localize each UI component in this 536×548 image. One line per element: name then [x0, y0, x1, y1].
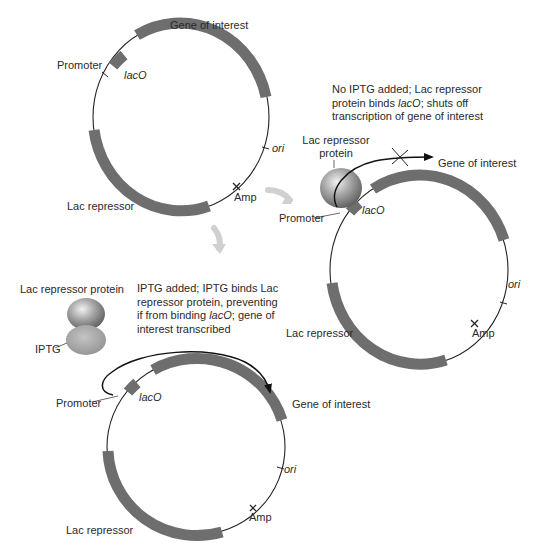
- gene-of-interest-segment: [153, 358, 282, 420]
- label-lac-repressor: Lac repressor: [286, 327, 353, 340]
- plasmid-base: [93, 23, 269, 211]
- lac-repressor-segment: [108, 451, 222, 536]
- lac-repressor-segment: [332, 283, 446, 364]
- label-lac-repressor-protein: Lac repressor protein: [300, 134, 372, 160]
- lac-repressor-protein: [320, 168, 362, 208]
- label-amp: Amp: [234, 191, 257, 204]
- label-laco: lacO: [362, 204, 385, 217]
- caption-iptg: IPTG added; IPTG binds Lac repressor pro…: [137, 282, 278, 336]
- label-gene-of-interest: Gene of interest: [292, 398, 370, 411]
- label-promoter: Promoter: [279, 212, 324, 225]
- label-gene-of-interest: Gene of interest: [170, 19, 248, 32]
- gene-of-interest-segment: [373, 175, 504, 240]
- label-lac-repressor: Lac repressor: [66, 524, 133, 537]
- laco-segment: [128, 383, 137, 392]
- lac-repressor-segment: [94, 130, 209, 211]
- laco-segment: [113, 55, 124, 66]
- ori-tick: [262, 147, 269, 149]
- label-promoter: Promoter: [56, 397, 101, 410]
- caption-no-iptg: No IPTG added; Lac repressor protein bin…: [332, 83, 483, 124]
- label-lac-repressor: Lac repressor: [67, 200, 134, 213]
- label-promoter: Promoter: [57, 59, 102, 72]
- label-ori: ori: [508, 278, 520, 291]
- label-amp: Amp: [472, 327, 495, 340]
- label-ori: ori: [284, 463, 296, 476]
- label-laco: lacO: [124, 69, 147, 82]
- label-ori: ori: [272, 142, 284, 155]
- ori-tick: [500, 302, 507, 304]
- label-gene-of-interest: Gene of interest: [438, 157, 516, 170]
- iptg-molecule: [66, 325, 106, 355]
- label-amp: Amp: [249, 511, 272, 524]
- gene-of-interest-segment: [137, 23, 266, 97]
- label-lac-repressor-protein: Lac repressor protein: [20, 283, 124, 296]
- label-laco: lacO: [139, 391, 162, 404]
- label-iptg: IPTG: [35, 343, 61, 356]
